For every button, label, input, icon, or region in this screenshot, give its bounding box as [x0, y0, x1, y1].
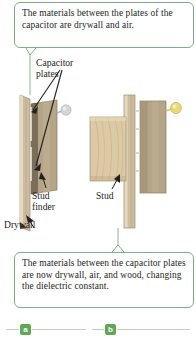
callout-top-text: The materials between the plates of the …	[22, 8, 187, 31]
panel-a-stud-finder-leader	[39, 172, 46, 188]
panel-b-indicator-lamp	[166, 102, 181, 113]
panel-b-drywall	[124, 95, 135, 228]
panel-b-stud-finder	[140, 101, 166, 193]
annotation-stud: Stud	[96, 190, 114, 201]
annotation-drywall: Drywall	[4, 219, 35, 230]
panel-a-stud-finder	[31, 100, 57, 194]
callout-top-tail	[26, 48, 36, 55]
panel-b-stud	[90, 117, 126, 181]
annotation-capacitor-plates: Capacitor plates	[36, 57, 73, 80]
callout-bottom: The materials between the capacitor plat…	[14, 252, 194, 308]
panel-a-plate-leaders	[31, 70, 62, 171]
panel-a-capacitor-plates	[30, 107, 32, 181]
panel-b-stud-leader	[112, 174, 120, 189]
panel-a-drywall	[20, 95, 30, 231]
panel-b-capacitor-plates	[135, 110, 140, 172]
panel-a-indicator-lamp	[57, 105, 71, 115]
panel-tag-a: a	[20, 324, 31, 335]
callout-bottom-text: The materials between the capacitor plat…	[22, 258, 187, 293]
callout-bottom-tail	[112, 245, 124, 252]
figure-stage: The materials between the plates of the …	[0, 0, 196, 339]
callout-top: The materials between the plates of the …	[14, 2, 194, 48]
annotation-stud-finder: Stud finder	[32, 190, 55, 213]
panel-tag-b: b	[105, 324, 116, 335]
